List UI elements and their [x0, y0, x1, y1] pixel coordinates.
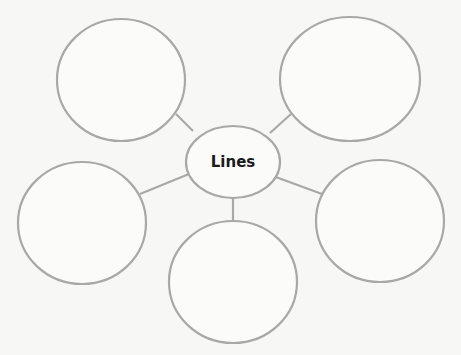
- spoke-bottom-right: [273, 176, 322, 194]
- bubble-top-right[interactable]: [280, 17, 420, 141]
- bubble-bottom-middle[interactable]: [169, 221, 297, 343]
- bubble-top-left[interactable]: [57, 19, 185, 141]
- bubble-bottom-left[interactable]: [18, 162, 146, 284]
- spoke-bottom-left: [140, 174, 189, 194]
- bubble-map: Lines: [0, 0, 461, 355]
- spoke-top-right: [270, 114, 291, 133]
- spoke-top-left: [176, 114, 193, 131]
- bubble-bottom-right[interactable]: [316, 160, 444, 282]
- center-label: Lines: [186, 145, 280, 179]
